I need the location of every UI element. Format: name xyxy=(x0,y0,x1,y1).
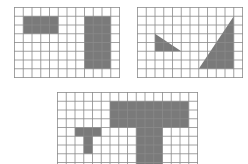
grid-canvas xyxy=(14,7,120,78)
grid-canvas xyxy=(57,92,198,164)
large-t-shape xyxy=(110,101,189,164)
grid-with-triangles xyxy=(137,7,243,78)
grid-canvas xyxy=(137,7,243,78)
grid-with-t-shapes xyxy=(57,92,198,164)
small-t-shape xyxy=(75,128,101,154)
grid-with-rectangles xyxy=(14,7,120,78)
